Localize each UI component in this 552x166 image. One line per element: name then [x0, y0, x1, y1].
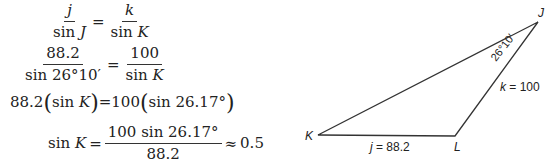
side-label-k: k = 100 [500, 80, 540, 94]
angle-label: 26°10′ [488, 31, 517, 63]
vertex-label-J: J [537, 6, 545, 20]
side-label-j: j = 88.2 [368, 140, 410, 154]
vertex-label-L: L [454, 140, 461, 154]
vertex-label-K: K [305, 129, 314, 143]
triangle-diagram: J K L 26°10′ k = 100 j = 88.2 [0, 0, 552, 166]
